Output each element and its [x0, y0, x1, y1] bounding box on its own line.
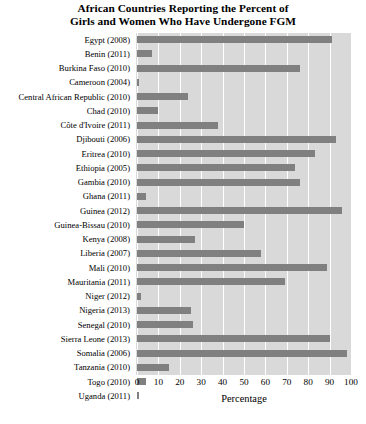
x-tick-label: 40: [218, 376, 227, 388]
category-label-row: Togo (2010): [0, 375, 132, 389]
category-label: Niger (2012): [85, 292, 132, 301]
bar-row: [136, 147, 352, 161]
category-label: Mauritania (2011): [68, 278, 132, 287]
bar: [137, 207, 342, 214]
bar-row: [136, 47, 352, 61]
category-label: Benin (2011): [85, 50, 132, 59]
category-label-row: Chad (2010): [0, 104, 132, 118]
category-label-row: Ghana (2011): [0, 190, 132, 204]
bar: [137, 107, 158, 114]
x-tick-label: 30: [197, 376, 206, 388]
bar-row: [136, 218, 352, 232]
category-label-row: Tanzania (2010): [0, 361, 132, 375]
category-label-row: Benin (2011): [0, 47, 132, 61]
category-label-row: Gambia (2010): [0, 176, 132, 190]
category-label-row: Senegal (2010): [0, 318, 132, 332]
bar-row: [136, 33, 352, 47]
category-label-row: Guinea-Bissau (2010): [0, 218, 132, 232]
category-label: Mali (2010): [89, 264, 132, 273]
bar-row: [136, 161, 352, 175]
bar-series: [136, 33, 352, 375]
bar-row: [136, 304, 352, 318]
bar: [137, 236, 195, 243]
category-label: Cameroon (2004): [69, 78, 132, 87]
bar-row: [136, 133, 352, 147]
x-tick-label: 60: [261, 376, 270, 388]
category-label: Sierra Leone (2013): [61, 335, 132, 344]
category-label: Ghana (2011): [83, 192, 132, 201]
category-label: Djibouti (2006): [76, 135, 132, 144]
bar: [137, 364, 169, 371]
category-label: Ethiopia (2005): [76, 164, 132, 173]
bar: [137, 36, 332, 43]
bar-row: [136, 318, 352, 332]
bar-row: [136, 233, 352, 247]
category-label-row: Sierra Leone (2013): [0, 332, 132, 346]
category-label-row: Kenya (2008): [0, 233, 132, 247]
chart-title: African Countries Reporting the Percent …: [0, 2, 366, 28]
bar-row: [136, 247, 352, 261]
category-axis-labels: Egypt (2008)Benin (2011)Burkina Faso (20…: [0, 33, 132, 375]
category-label: Tanzania (2010): [74, 363, 132, 372]
x-tick-label: 50: [239, 376, 248, 388]
x-tick-label: 10: [154, 376, 163, 388]
category-label: Nigeria (2013): [79, 306, 132, 315]
bar: [137, 164, 295, 171]
category-label: Central African Republic (2010): [19, 93, 132, 102]
category-label: Guinea (2012): [80, 207, 132, 216]
bar: [137, 321, 193, 328]
chart-title-line-2: Girls and Women Who Have Undergone FGM: [0, 15, 366, 28]
category-label-row: Ethiopia (2005): [0, 161, 132, 175]
bar-row: [136, 190, 352, 204]
category-label-row: Djibouti (2006): [0, 133, 132, 147]
bar-row: [136, 104, 352, 118]
category-label-row: Somalia (2006): [0, 347, 132, 361]
category-label: Chad (2010): [87, 107, 132, 116]
category-label: Uganda (2011): [79, 392, 132, 401]
category-label-row: Eritrea (2010): [0, 147, 132, 161]
bar-row: [136, 332, 352, 346]
x-axis-title: Percentage: [136, 392, 352, 405]
bar: [137, 122, 218, 129]
category-label: Somalia (2006): [77, 349, 132, 358]
bar-row: [136, 76, 352, 90]
bar-row: [136, 275, 352, 289]
category-label: Egypt (2008): [84, 36, 132, 45]
category-label-row: Burkina Faso (2010): [0, 62, 132, 76]
bar: [137, 250, 261, 257]
category-label-row: Nigeria (2013): [0, 304, 132, 318]
bar-row: [136, 176, 352, 190]
x-tick-label: 70: [282, 376, 291, 388]
category-label-row: Guinea (2012): [0, 204, 132, 218]
fgm-bar-chart: African Countries Reporting the Percent …: [0, 0, 366, 424]
bar: [137, 150, 315, 157]
category-label-row: Uganda (2011): [0, 389, 132, 403]
bar: [137, 221, 244, 228]
bar: [137, 136, 336, 143]
category-label-row: Niger (2012): [0, 290, 132, 304]
bar-row: [136, 347, 352, 361]
bar-row: [136, 90, 352, 104]
category-label-row: Cameroon (2004): [0, 76, 132, 90]
category-label-row: Côte d'Ivoire (2011): [0, 119, 132, 133]
chart-title-line-1: African Countries Reporting the Percent …: [0, 2, 366, 15]
category-label: Kenya (2008): [83, 235, 133, 244]
bar: [137, 350, 347, 357]
bar-row: [136, 290, 352, 304]
category-label: Côte d'Ivoire (2011): [61, 121, 132, 130]
bar-row: [136, 361, 352, 375]
bar-row: [136, 119, 352, 133]
bar: [137, 93, 188, 100]
x-tick-label: 20: [175, 376, 184, 388]
category-label-row: Liberia (2007): [0, 247, 132, 261]
category-label: Senegal (2010): [78, 321, 132, 330]
bar-row: [136, 261, 352, 275]
category-label-row: Mauritania (2011): [0, 275, 132, 289]
category-label-row: Egypt (2008): [0, 33, 132, 47]
category-label: Guinea-Bissau (2010): [54, 221, 132, 230]
x-axis-ticks: 0102030405060708090100: [136, 376, 352, 390]
bar: [137, 293, 141, 300]
category-label: Gambia (2010): [78, 178, 132, 187]
category-label: Eritrea (2010): [82, 150, 132, 159]
bar-row: [136, 204, 352, 218]
